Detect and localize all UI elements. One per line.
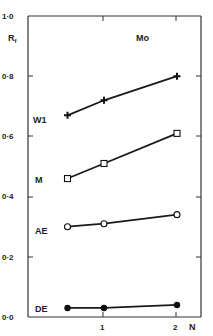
- y-tick-label: 0·2: [2, 253, 14, 262]
- data-point-marker: [101, 160, 107, 166]
- y-tick-label: 1·0: [2, 12, 14, 21]
- data-point-marker: [101, 221, 107, 227]
- data-point-marker: [174, 302, 180, 308]
- data-point-marker: [64, 305, 70, 311]
- series-label-w1: W1: [33, 115, 47, 125]
- data-point-marker: [174, 130, 180, 136]
- y-tick-label: 0·4: [2, 192, 14, 201]
- series-m: [65, 130, 181, 181]
- y-axis-ticks: [28, 16, 201, 317]
- data-point-marker: [174, 212, 180, 218]
- data-point-marker: [65, 176, 71, 182]
- series-de: [64, 302, 180, 311]
- y-tick-label: 0·6: [2, 132, 14, 141]
- series-w1: [64, 73, 181, 119]
- x-axis-label: N: [189, 322, 196, 332]
- data-point-marker: [101, 305, 107, 311]
- y-tick-label: 0·0: [2, 313, 14, 322]
- x-tick-label: 2: [173, 323, 178, 332]
- series-ae: [65, 212, 181, 230]
- data-point-marker: [101, 97, 108, 104]
- data-point-marker: [174, 73, 181, 80]
- y-tick-label: 0·8: [2, 72, 14, 81]
- series-label-m: M: [35, 175, 43, 185]
- series-label-de: DE: [35, 304, 48, 314]
- series-label-ae: AE: [35, 226, 48, 236]
- data-point-marker: [65, 224, 71, 230]
- chart-title: Mo: [136, 33, 149, 43]
- plot-frame: [28, 16, 201, 317]
- y-axis-label: Rf: [8, 33, 18, 44]
- x-tick-label: 1: [100, 323, 105, 332]
- series-layer: [64, 73, 181, 311]
- rf-chart: 0·0 0·2 0·4 0·6 0·8 1·0 1 2 N Rf Mo W1 M…: [0, 0, 213, 336]
- data-point-marker: [64, 112, 71, 119]
